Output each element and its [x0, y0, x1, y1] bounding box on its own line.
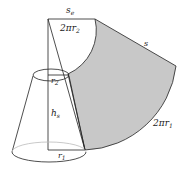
- frustum-diagram: se 2πr2 s 2πr1 r2 hs r1: [0, 0, 188, 171]
- label-s: s: [144, 39, 148, 48]
- label-se: se: [66, 5, 75, 16]
- label-r2: r2: [51, 76, 59, 86]
- label-arc-top: 2πr2: [59, 23, 80, 34]
- label-arc-bottom: 2πr1: [152, 118, 173, 129]
- frustum-left-side: [12, 76, 33, 152]
- label-r1: r1: [58, 151, 66, 161]
- frustum-bottom-ellipse-back: [12, 142, 86, 152]
- frustum-bottom-ellipse-front: [12, 152, 86, 162]
- label-hs: hs: [51, 108, 60, 119]
- annular-sector: [68, 19, 176, 150]
